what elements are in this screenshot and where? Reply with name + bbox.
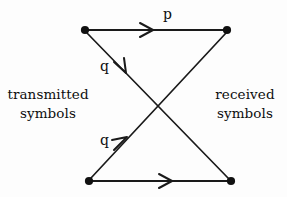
- node-transmitted-bottom: [85, 177, 93, 185]
- edge-label-q-lower: q: [100, 132, 109, 148]
- transmitted-symbols-label: transmitted symbols: [2, 85, 94, 123]
- node-received-top: [223, 26, 231, 34]
- edge-label-p: p: [163, 6, 172, 22]
- transmitted-symbols-line1: transmitted: [2, 85, 94, 104]
- received-symbols-line2: symbols: [205, 104, 285, 123]
- arrowhead-cross-down: [114, 58, 126, 73]
- node-transmitted-top: [81, 26, 89, 34]
- edge-label-q-upper: q: [100, 58, 109, 74]
- received-symbols-line1: received: [205, 85, 285, 104]
- node-received-bottom: [227, 177, 235, 185]
- diagram-canvas: p q q transmitted symbols received symbo…: [0, 0, 287, 197]
- received-symbols-label: received symbols: [205, 85, 285, 123]
- transmitted-symbols-line2: symbols: [2, 104, 94, 123]
